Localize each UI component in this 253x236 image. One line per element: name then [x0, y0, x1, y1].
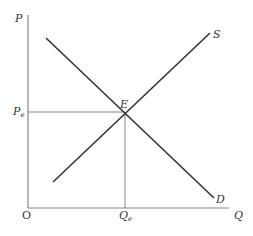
- equilibrium-quantity-label: Qe: [119, 209, 132, 223]
- supply-curve: [53, 33, 210, 182]
- equilibrium-price-label: Pe: [12, 105, 25, 119]
- demand-curve: [46, 38, 214, 198]
- y-axis-label: P: [14, 12, 23, 25]
- equilibrium-point-label: E: [119, 98, 128, 111]
- origin-label: O: [22, 209, 31, 222]
- demand-label: D: [215, 193, 225, 206]
- x-axis-label: Q: [234, 209, 243, 222]
- supply-demand-diagram: P Q O S D E Pe Qe: [0, 0, 253, 236]
- supply-label: S: [213, 28, 221, 41]
